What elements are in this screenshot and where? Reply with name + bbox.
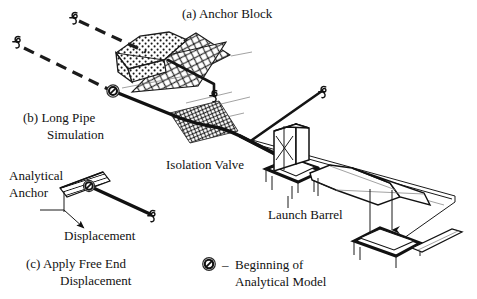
analytical-pipe xyxy=(89,186,150,214)
spring-icon xyxy=(70,12,77,24)
dashed-leader-lower xyxy=(24,48,112,91)
label-analytical-anchor-line2: Anchor xyxy=(9,185,49,200)
isolation-valve-pipe-segment xyxy=(170,101,238,143)
legend-text-line1: Beginning of xyxy=(235,257,304,272)
barrel-support-foundation xyxy=(354,189,462,268)
spring-icon xyxy=(13,36,20,48)
legend-dash: – xyxy=(221,257,229,272)
legend-text-line2: Analytical Model xyxy=(235,274,327,289)
dashed-leader-upper xyxy=(79,21,146,52)
legend-symbol xyxy=(203,258,216,271)
circle-slash-icon xyxy=(83,180,94,191)
circle-slash-icon xyxy=(107,85,119,97)
label-anchor-block: (a) Anchor Block xyxy=(182,6,273,21)
label-long-pipe-simulation-line2: Simulation xyxy=(47,127,105,142)
label-launch-barrel: Launch Barrel xyxy=(268,207,343,222)
valve-pipe-hatch xyxy=(170,101,238,143)
isolation-valve-assembly xyxy=(266,124,322,199)
pipeline-isometric-diagram: (a) Anchor Block (b) Long Pipe Simulatio… xyxy=(0,0,477,299)
figure-canvas: (a) Anchor Block (b) Long Pipe Simulatio… xyxy=(0,0,477,299)
label-long-pipe-simulation-line1: (b) Long Pipe xyxy=(23,110,95,125)
label-isolation-valve: Isolation Valve xyxy=(166,157,244,172)
valve-body-side xyxy=(296,124,309,164)
spring-icon xyxy=(319,86,326,97)
label-displacement: Displacement xyxy=(64,228,136,243)
label-apply-free-end-line1: (c) Apply Free End xyxy=(26,256,127,271)
label-analytical-anchor-line1: Analytical xyxy=(9,168,64,183)
label-apply-free-end-line2: Displacement xyxy=(60,273,132,288)
arrow-icon xyxy=(40,210,84,228)
